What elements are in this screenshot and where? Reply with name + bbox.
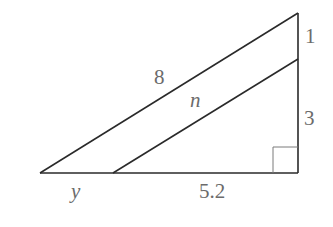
label-8: 8 [154,65,165,89]
label-n: n [190,88,201,112]
label-5-2: 5.2 [199,179,225,203]
label-3: 3 [304,106,315,130]
right-angle-marker [273,147,298,173]
hypotenuse-outer [40,13,298,173]
inner-segment-n [113,59,298,173]
triangle-diagram: 8 n 1 3 y 5.2 [0,0,333,227]
label-y: y [69,179,81,203]
label-1: 1 [305,24,316,48]
